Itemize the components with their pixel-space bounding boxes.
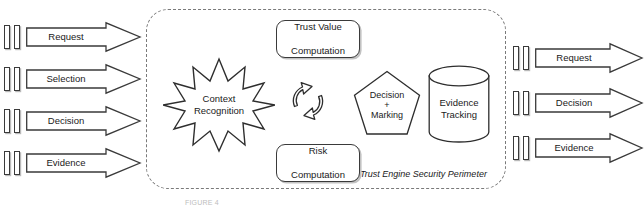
- node-decision-marking[interactable]: Decision + Marking: [353, 70, 421, 136]
- figure-caption: FIGURE 4: [185, 199, 219, 206]
- output-arrow-label: Decision: [539, 88, 609, 118]
- cyclic-arrows-icon: [284, 77, 332, 125]
- arrow-tick-bar: [4, 67, 10, 91]
- arrow-tick-bar: [513, 136, 519, 160]
- arrow-tick-bar: [523, 91, 529, 115]
- node-line-2: Computation: [291, 169, 345, 181]
- arrow-tick-bar: [523, 46, 529, 70]
- arrow-tick-bar: [14, 25, 20, 49]
- node-risk-computation[interactable]: Risk Computation: [276, 144, 360, 182]
- arrow-tick-bar: [4, 151, 10, 175]
- node-line-1: Trust Value: [291, 21, 345, 33]
- diagram-canvas: Request Selection Decision Evidence: [0, 0, 644, 208]
- arrow-tick-bar: [4, 109, 10, 133]
- input-arrow-label: Evidence: [30, 148, 102, 178]
- node-evidence-tracking[interactable]: Evidence Tracking: [428, 65, 490, 143]
- arrow-tick-bar: [14, 67, 20, 91]
- output-arrow-label: Evidence: [539, 133, 609, 163]
- node-line-1: Risk: [291, 145, 345, 157]
- node-line-2: Computation: [291, 45, 345, 57]
- arrow-tick-bar: [14, 151, 20, 175]
- input-arrow-label: Request: [30, 22, 102, 52]
- arrow-tick-bar: [4, 25, 10, 49]
- input-arrow-label: Selection: [30, 64, 102, 94]
- output-arrow-label: Request: [539, 43, 609, 73]
- arrow-tick-bar: [523, 136, 529, 160]
- arrow-tick-bar: [513, 46, 519, 70]
- arrow-tick-bar: [513, 91, 519, 115]
- node-context-recognition[interactable]: Context Recognition: [163, 57, 275, 153]
- node-trust-value-computation[interactable]: Trust Value Computation: [276, 20, 360, 58]
- input-arrow-label: Decision: [30, 106, 102, 136]
- arrow-tick-bar: [14, 109, 20, 133]
- perimeter-label: Trust Engine Security Perimeter: [360, 169, 487, 179]
